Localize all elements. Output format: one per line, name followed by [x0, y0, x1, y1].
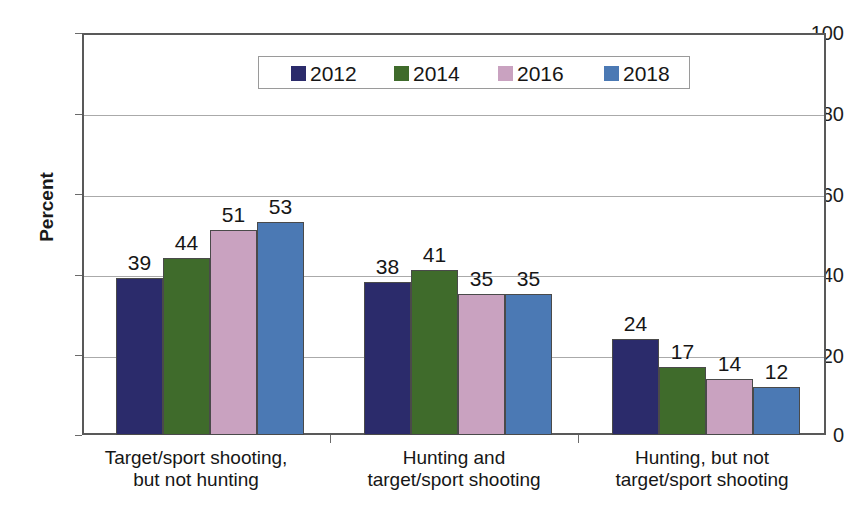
- bar-2018-cat3: [753, 387, 800, 435]
- y-tick-mark: [75, 435, 82, 436]
- legend-swatch-icon: [498, 66, 513, 81]
- bar-2014-cat3: [659, 367, 706, 435]
- y-tick-mark: [75, 194, 82, 195]
- y-tick-mark: [75, 275, 82, 276]
- legend-item-2018[interactable]: 2018: [604, 61, 670, 85]
- bar-value-label: 12: [749, 361, 804, 382]
- legend-label: 2014: [413, 63, 460, 84]
- y-tick-mark: [75, 355, 82, 356]
- y-tick-mark: [75, 114, 82, 115]
- legend-swatch-icon: [394, 66, 409, 81]
- bar-value-label: 53: [253, 196, 308, 217]
- x-category-line: target/sport shooting: [330, 469, 578, 491]
- x-category-label-2: Hunting and target/sport shooting: [330, 447, 578, 492]
- bar-2014-cat2: [411, 270, 458, 435]
- bar-2012-cat3: [612, 339, 659, 435]
- bar-2016-cat1: [210, 230, 257, 435]
- legend-item-2014[interactable]: 2014: [394, 61, 460, 85]
- legend-swatch-icon: [291, 66, 306, 81]
- bar-value-label: 24: [608, 313, 663, 334]
- bar-2018-cat1: [257, 222, 304, 435]
- x-category-line: but not hunting: [72, 469, 320, 491]
- x-category-line: Hunting and: [330, 447, 578, 469]
- bar-value-label: 35: [501, 268, 556, 289]
- legend-item-2012[interactable]: 2012: [291, 61, 357, 85]
- x-category-line: target/sport shooting: [578, 469, 826, 491]
- legend-label: 2012: [310, 63, 357, 84]
- bar-value-label: 41: [407, 244, 462, 265]
- legend-item-2016[interactable]: 2016: [498, 61, 564, 85]
- x-category-label-3: Hunting, but not target/sport shooting: [578, 447, 826, 492]
- bar-2012-cat2: [364, 282, 411, 435]
- x-category-line: Hunting, but not: [578, 447, 826, 469]
- x-tick-mark: [330, 435, 331, 443]
- bar-2016-cat3: [706, 379, 753, 435]
- legend-swatch-icon: [604, 66, 619, 81]
- x-tick-mark: [578, 435, 579, 443]
- bar-2012-cat1: [116, 278, 163, 435]
- bar-2018-cat2: [505, 294, 552, 435]
- y-axis-title: Percent: [36, 147, 58, 267]
- bar-value-label: 44: [159, 232, 214, 253]
- legend: 2012 2014 2016 2018: [258, 56, 690, 89]
- bar-2014-cat1: [163, 258, 210, 435]
- x-category-label-1: Target/sport shooting, but not hunting: [72, 447, 320, 492]
- bar-chart: Percent 100 80 60 40 20 0 39445153384135…: [0, 0, 844, 530]
- legend-label: 2018: [623, 63, 670, 84]
- legend-label: 2016: [517, 63, 564, 84]
- bar-value-label: 39: [112, 252, 167, 273]
- y-tick-mark: [75, 33, 82, 34]
- x-category-line: Target/sport shooting,: [72, 447, 320, 469]
- bar-2016-cat2: [458, 294, 505, 435]
